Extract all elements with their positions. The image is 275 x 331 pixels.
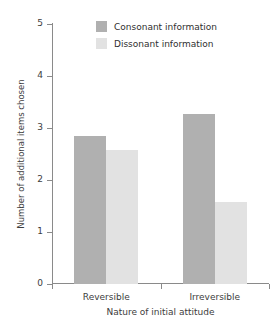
x-axis-tick-mark xyxy=(52,284,53,289)
chart-legend: Consonant information Dissonant informat… xyxy=(96,19,217,53)
bar-chart-figure: 012345 ReversibleIrreversible Number of … xyxy=(0,0,275,331)
bar xyxy=(74,136,106,284)
legend-label-consonant: Consonant information xyxy=(114,22,217,32)
y-axis-tick-label: 0 xyxy=(37,279,43,288)
x-axis-tick-mark xyxy=(269,284,270,289)
legend-swatch-consonant xyxy=(96,21,107,32)
bar xyxy=(215,202,247,284)
legend-swatch-dissonant xyxy=(96,38,107,49)
legend-item: Consonant information xyxy=(96,19,217,34)
x-axis-title: Nature of initial attitude xyxy=(52,307,269,318)
y-axis-title: Number of additional items chosen xyxy=(14,24,28,284)
x-axis-category-label: Irreversible xyxy=(165,292,265,303)
plot-area xyxy=(52,24,268,284)
y-axis-tick-label: 4 xyxy=(37,71,43,80)
legend-label-dissonant: Dissonant information xyxy=(114,39,214,49)
legend-item: Dissonant information xyxy=(96,36,217,51)
y-axis-tick-label: 2 xyxy=(37,175,43,184)
x-axis-category-label: Reversible xyxy=(56,292,156,303)
bar xyxy=(106,150,138,284)
x-axis-tick-mark xyxy=(161,284,162,289)
bar xyxy=(183,114,215,284)
y-axis-tick-label: 1 xyxy=(37,227,43,236)
y-axis-tick-label: 3 xyxy=(37,123,43,132)
y-axis-tick-label: 5 xyxy=(37,19,43,28)
